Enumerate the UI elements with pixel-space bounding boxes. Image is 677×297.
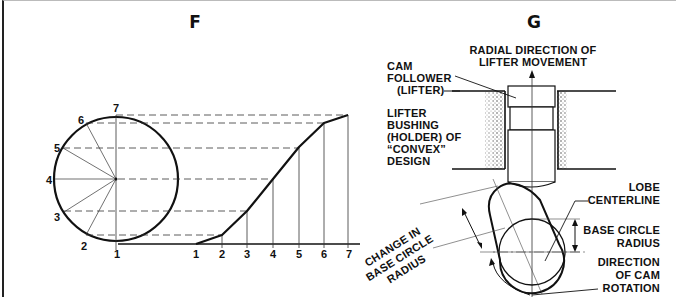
circle-label-4: 4 <box>46 174 53 186</box>
cam-follower-label-3: (LIFTER) <box>397 84 445 96</box>
bushing-label-5: DESIGN <box>387 155 430 167</box>
lift-curve <box>196 115 348 244</box>
rotation-label-3: ROTATION <box>603 282 660 294</box>
radial-direction-label-2: LIFTER MOVEMENT <box>479 56 587 68</box>
bushing-label-3: (HOLDER) OF <box>387 131 461 143</box>
change-radius-label: CHANGE IN BASE CIRCLE RADIUS <box>357 221 442 294</box>
axis-label-4: 4 <box>270 248 277 260</box>
axis-label-5: 5 <box>296 248 302 260</box>
panel-g: G RADIAL DIRECTION OF LIFTER MOVEMENT <box>357 12 660 297</box>
circle-label-6: 6 <box>78 114 84 126</box>
bushing-label: LIFTER <box>387 107 427 119</box>
axis-label-7: 7 <box>346 248 352 260</box>
lobe-centerline-label: LOBE <box>629 181 660 193</box>
axis-label-1: 1 <box>193 248 199 260</box>
rotation-arrow-icon <box>489 258 495 266</box>
panel-f: F <box>46 12 360 260</box>
circle-label-7: 7 <box>113 102 119 114</box>
circle-label-5: 5 <box>54 142 60 154</box>
bushing-label-2: BUSHING <box>387 119 439 131</box>
circle-label-3: 3 <box>54 211 60 223</box>
axis-label-6: 6 <box>321 248 327 260</box>
axis-label-3: 3 <box>244 248 250 260</box>
circle-label-2: 2 <box>81 240 87 252</box>
bushing-label-4: “CONVEX” <box>387 143 446 155</box>
rotation-label: DIRECTION <box>598 256 660 268</box>
rotation-label-2: OF CAM <box>615 269 660 281</box>
circle-spokes <box>55 123 116 235</box>
radial-direction-label: RADIAL DIRECTION OF <box>469 44 596 56</box>
panel-g-title: G <box>527 12 541 32</box>
lobe-centerline-label-2: CENTERLINE <box>588 194 660 206</box>
projection-lines <box>63 115 348 235</box>
axis-label-2: 2 <box>219 248 225 260</box>
panel-f-title: F <box>189 12 201 32</box>
cam-follower <box>508 86 555 182</box>
cam-follower-label: CAM <box>387 60 413 72</box>
ordinates <box>222 115 348 248</box>
cam-follower-label-2: FOLLOWER <box>387 72 452 84</box>
cam-diagram: F <box>0 0 677 297</box>
change-radius-dimension <box>464 212 480 245</box>
base-radius-label-2: RADIUS <box>617 237 660 249</box>
base-radius-label: BASE CIRCLE <box>583 224 660 236</box>
circle-label-1: 1 <box>114 248 120 260</box>
